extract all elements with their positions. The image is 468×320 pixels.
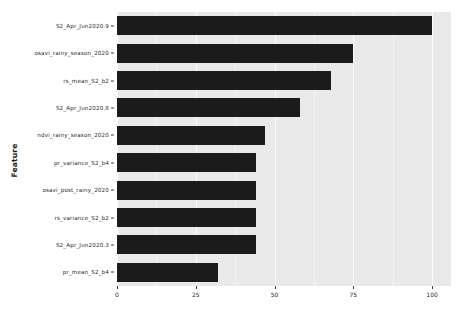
x-axis-tick-mark xyxy=(117,286,118,289)
y-axis-tick-mark xyxy=(111,135,114,136)
x-axis-tick-label: 25 xyxy=(192,291,200,298)
x-axis-tick-mark xyxy=(275,286,276,289)
bar-row xyxy=(117,16,451,35)
x-axis-tick-mark xyxy=(432,286,433,289)
y-axis-tick-mark xyxy=(111,244,114,245)
bar-series xyxy=(117,12,451,286)
y-axis-tick-label: S2_Apr_Jun2020.9 xyxy=(56,23,109,29)
bar xyxy=(117,44,353,63)
bar xyxy=(117,181,256,200)
x-axis-tick-label: 100 xyxy=(426,291,437,298)
bar xyxy=(117,208,256,227)
x-axis-tick-label: 75 xyxy=(349,291,357,298)
y-axis-tick-label: rs_mean_S2_b2 xyxy=(63,78,109,84)
y-axis-tick-mark xyxy=(111,107,114,108)
bar-row xyxy=(117,71,451,90)
y-axis-tick-mark xyxy=(111,217,114,218)
y-axis-tick-label: osavi_rainy_season_2020 xyxy=(34,50,109,56)
bar-row xyxy=(117,126,451,145)
bar-row xyxy=(117,263,451,282)
y-axis-tick-mark xyxy=(111,80,114,81)
y-axis-tick-mark xyxy=(111,190,114,191)
y-axis-tick-labels: S2_Apr_Jun2020.9osavi_rainy_season_2020r… xyxy=(0,12,117,286)
y-axis-tick-mark xyxy=(111,53,114,54)
y-axis-tick-label: S2_Apr_Jun2020.8 xyxy=(56,105,109,111)
bar xyxy=(117,235,256,254)
bar xyxy=(117,126,265,145)
y-axis-tick-label: pr_mean_S2_b4 xyxy=(63,269,109,275)
x-axis-tick-label: 0 xyxy=(115,291,119,298)
y-axis-tick-label: ndvi_rainy_season_2020 xyxy=(37,132,109,138)
plot-panel xyxy=(117,12,451,286)
y-axis-tick-label: osavi_post_rainy_2020 xyxy=(42,187,109,193)
bar-row xyxy=(117,44,451,63)
bar-row xyxy=(117,181,451,200)
x-axis-tick-label: 50 xyxy=(271,291,279,298)
x-axis-tick-mark xyxy=(353,286,354,289)
x-axis-tick-labels: 0255075100 xyxy=(117,286,451,310)
bar-row xyxy=(117,208,451,227)
y-axis-tick-mark xyxy=(111,272,114,273)
y-axis-tick-label: S2_Apr_Jun2020.3 xyxy=(56,242,109,248)
bar xyxy=(117,98,300,117)
x-axis-tick-mark xyxy=(196,286,197,289)
y-axis-tick-label: pr_variance_S2_b4 xyxy=(54,160,109,166)
bar xyxy=(117,16,432,35)
bar xyxy=(117,71,331,90)
bar-row xyxy=(117,235,451,254)
bar xyxy=(117,263,218,282)
bar-chart-figure: Feature S2_Apr_Jun2020.9osavi_rainy_seas… xyxy=(0,0,468,320)
y-axis-tick-mark xyxy=(111,25,114,26)
bar-row xyxy=(117,153,451,172)
y-axis-tick-label: rs_variance_S2_b2 xyxy=(55,215,109,221)
bar-row xyxy=(117,98,451,117)
y-axis-tick-mark xyxy=(111,162,114,163)
bar xyxy=(117,153,256,172)
